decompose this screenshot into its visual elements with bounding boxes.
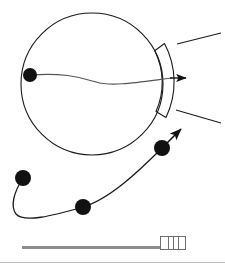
scroll-thumb[interactable] xyxy=(160,236,186,250)
scroll-thumb-grip-icon xyxy=(173,237,174,249)
node-path-middle xyxy=(75,199,91,215)
scroll-track[interactable] xyxy=(22,246,160,249)
scroll-thumb-grip-icon xyxy=(178,237,179,249)
wavy-chord-path xyxy=(30,74,172,84)
ball-outline-circle xyxy=(21,13,163,155)
curved-paddle-shape xyxy=(155,44,174,118)
node-path-end xyxy=(154,140,170,156)
node-ball-center-left xyxy=(23,68,37,82)
lower-whisker-line xyxy=(176,110,221,123)
scroll-thumb-grip-icon xyxy=(168,237,169,249)
upper-whisker-line xyxy=(177,33,221,44)
figure-svg xyxy=(0,0,225,275)
node-path-start xyxy=(15,170,31,186)
diagram-canvas: Ball trajectory diagram xyxy=(0,0,225,275)
